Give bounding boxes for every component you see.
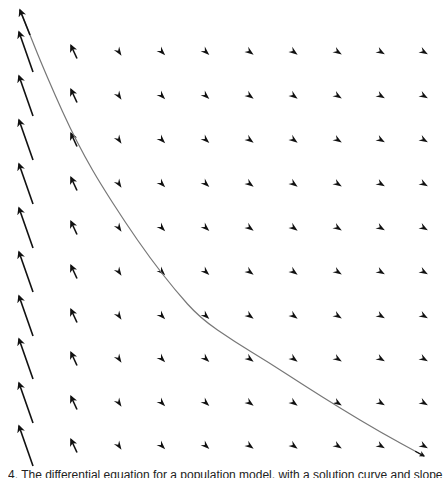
- slope-arrows: [19, 32, 428, 466]
- slope-arrowhead-icon: [375, 223, 384, 230]
- slope-arrowhead-icon: [332, 135, 341, 143]
- slope-arrowhead-icon: [288, 47, 297, 55]
- slope-arrowhead-icon: [332, 311, 341, 319]
- slope-arrow-icon: [19, 339, 33, 379]
- slope-arrowhead-icon: [114, 90, 122, 99]
- slope-arrowhead-icon: [288, 135, 297, 143]
- slope-arrowhead-icon: [419, 91, 428, 98]
- slope-arrowhead-icon: [419, 398, 428, 405]
- slope-arrowhead-icon: [244, 441, 253, 449]
- slope-arrowhead-icon: [244, 91, 253, 99]
- slope-arrowhead-icon: [332, 267, 341, 275]
- solution-curve: [20, 10, 424, 456]
- slope-arrow-icon: [19, 76, 33, 116]
- slope-arrow-icon: [71, 222, 77, 235]
- slope-arrowhead-icon: [114, 440, 122, 449]
- slope-arrowhead-icon: [419, 47, 428, 54]
- slope-arrowhead-icon: [419, 354, 428, 361]
- curve-start-arrow-icon: [20, 10, 30, 35]
- slope-arrow-icon: [19, 164, 33, 204]
- slope-arrowhead-icon: [288, 441, 297, 449]
- slope-arrow-icon: [19, 426, 33, 466]
- slope-arrowhead-icon: [157, 311, 166, 320]
- slope-arrowhead-icon: [244, 179, 253, 187]
- slope-arrowhead-icon: [375, 441, 384, 448]
- slope-arrowhead-icon: [244, 311, 253, 319]
- slope-arrowhead-icon: [114, 134, 122, 143]
- slope-arrowhead-icon: [419, 179, 428, 186]
- slope-arrowhead-icon: [244, 267, 253, 275]
- slope-arrowhead-icon: [288, 398, 297, 406]
- slope-arrowhead-icon: [375, 179, 384, 186]
- slope-arrowhead-icon: [375, 91, 384, 98]
- slope-arrowhead-icon: [288, 311, 297, 319]
- slope-arrowhead-icon: [419, 135, 428, 142]
- slope-arrowhead-icon: [419, 223, 428, 230]
- slope-arrowhead-icon: [114, 222, 122, 231]
- slope-arrowhead-icon: [375, 398, 384, 405]
- slope-arrow-icon: [71, 353, 77, 366]
- slope-arrow-icon: [71, 266, 77, 279]
- slope-arrowhead-icon: [332, 354, 341, 362]
- slope-arrowhead-icon: [114, 310, 122, 319]
- slope-arrowhead-icon: [288, 179, 297, 187]
- slope-arrowhead-icon: [157, 47, 166, 56]
- slope-arrowhead-icon: [201, 398, 210, 406]
- slope-arrowhead-icon: [157, 91, 166, 100]
- slope-arrowhead-icon: [201, 441, 210, 449]
- slope-arrowhead-icon: [244, 398, 253, 406]
- slope-arrowhead-icon: [201, 135, 210, 143]
- slope-arrowhead-icon: [201, 267, 210, 275]
- slope-arrowhead-icon: [201, 91, 210, 99]
- slope-arrowhead-icon: [201, 47, 210, 55]
- slope-arrowhead-icon: [244, 135, 253, 143]
- figure-caption: 4. The differential equation for a popul…: [8, 467, 445, 478]
- slope-arrowhead-icon: [244, 354, 253, 362]
- slope-arrowhead-icon: [332, 223, 341, 231]
- slope-arrowhead-icon: [201, 179, 210, 187]
- slope-arrowhead-icon: [157, 441, 166, 450]
- solution-curve-line: [20, 10, 424, 456]
- slope-arrow-icon: [19, 252, 33, 292]
- slope-arrowhead-icon: [419, 441, 428, 448]
- slope-arrowhead-icon: [419, 311, 428, 318]
- slope-arrowhead-icon: [288, 267, 297, 275]
- slope-arrow-icon: [71, 397, 77, 410]
- slope-arrowhead-icon: [288, 223, 297, 231]
- slope-arrow-icon: [71, 46, 77, 59]
- slope-arrowhead-icon: [114, 178, 122, 187]
- slope-arrowhead-icon: [332, 441, 341, 449]
- slope-arrowhead-icon: [419, 267, 428, 274]
- slope-arrowhead-icon: [157, 135, 166, 144]
- slope-arrowhead-icon: [244, 47, 253, 55]
- slope-arrowhead-icon: [157, 398, 166, 407]
- slope-arrowhead-icon: [244, 223, 253, 231]
- slope-arrowhead-icon: [332, 91, 341, 99]
- slope-arrowhead-icon: [375, 354, 384, 361]
- slope-arrowhead-icon: [114, 46, 122, 55]
- slope-arrowhead-icon: [375, 311, 384, 318]
- slope-arrowhead-icon: [375, 267, 384, 274]
- slope-arrowhead-icon: [201, 223, 210, 231]
- slope-arrow-icon: [71, 440, 77, 453]
- slope-arrowhead-icon: [332, 179, 341, 187]
- slope-arrowhead-icon: [332, 47, 341, 55]
- slope-arrowhead-icon: [157, 223, 166, 232]
- slope-arrow-icon: [71, 90, 77, 103]
- slope-arrow-icon: [19, 120, 33, 160]
- slope-field-diagram: [0, 0, 445, 478]
- slope-arrow-icon: [19, 208, 33, 248]
- slope-arrowhead-icon: [288, 354, 297, 362]
- slope-arrowhead-icon: [114, 397, 122, 406]
- slope-arrowhead-icon: [375, 135, 384, 142]
- slope-arrow-icon: [71, 310, 77, 323]
- slope-arrowhead-icon: [114, 266, 122, 275]
- slope-arrow-icon: [19, 296, 33, 336]
- slope-arrowhead-icon: [157, 179, 166, 188]
- slope-arrowhead-icon: [201, 354, 210, 362]
- slope-arrow-icon: [19, 383, 33, 423]
- slope-arrowhead-icon: [288, 91, 297, 99]
- slope-arrowhead-icon: [114, 353, 122, 362]
- curve-end-arrow-icon: [415, 451, 424, 456]
- slope-arrowhead-icon: [375, 47, 384, 54]
